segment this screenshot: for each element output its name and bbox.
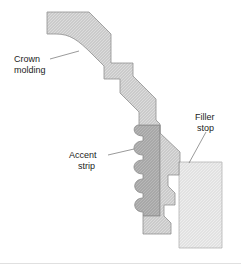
crown-molding-diagram: Crown molding Accent strip Filler stop xyxy=(0,0,241,277)
figure-illustration: Crown molding Accent strip Filler stop xyxy=(0,0,241,277)
crown-molding-label-line2: molding xyxy=(14,65,46,75)
accent-strip-label-line2: strip xyxy=(78,161,95,171)
filler-stop-label-line2: stop xyxy=(197,123,214,133)
filler-stop xyxy=(179,162,222,248)
filler-stop-label-line1: Filler xyxy=(195,112,215,122)
filler-stop-label: Filler stop xyxy=(195,112,217,133)
crown-molding-label: Crown molding xyxy=(14,54,46,75)
filler-stop-body xyxy=(179,162,222,248)
crown-molding-label-line1: Crown xyxy=(14,54,40,64)
accent-strip-label-line1: Accent xyxy=(69,150,97,160)
